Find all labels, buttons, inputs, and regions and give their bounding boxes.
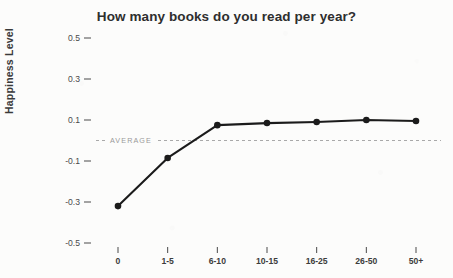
line-chart-plot: 0.50.30.1-0.1-0.3-0.5 01-56-1010-1516-25… xyxy=(0,0,453,278)
y-axis-tick-group: 0.50.30.1-0.1-0.3-0.5 xyxy=(65,33,91,248)
x-axis-tick-label: 6-10 xyxy=(209,256,226,266)
x-axis-tick-label: 0 xyxy=(116,256,121,266)
data-point-marker xyxy=(115,203,122,210)
x-axis-tick-label: 50+ xyxy=(409,256,424,266)
data-point-marker xyxy=(164,155,171,162)
y-axis-tick-label: -0.5 xyxy=(65,238,80,248)
data-point-marker xyxy=(264,120,271,127)
average-reference-line: AVERAGE xyxy=(96,136,441,145)
x-axis-tick-label: 1-5 xyxy=(161,256,174,266)
average-label: AVERAGE xyxy=(110,136,152,145)
y-axis-tick-label: 0.1 xyxy=(68,115,80,125)
x-axis-tick-group: 01-56-1010-1516-2526-5050+ xyxy=(116,247,424,266)
y-axis-tick-label: -0.3 xyxy=(65,197,80,207)
x-axis-tick-label: 16-25 xyxy=(306,256,328,266)
y-axis-tick-label: 0.5 xyxy=(68,33,80,43)
data-point-marker xyxy=(363,117,370,124)
data-point-marker xyxy=(413,118,420,125)
chart-page: How many books do you read per year? Hap… xyxy=(0,0,453,278)
y-axis-tick-label: 0.3 xyxy=(68,74,80,84)
x-axis-tick-label: 26-50 xyxy=(355,256,377,266)
data-point-marker xyxy=(214,122,221,129)
y-axis-tick-label: -0.1 xyxy=(65,156,80,166)
data-point-marker xyxy=(313,119,320,126)
x-axis-tick-label: 10-15 xyxy=(256,256,278,266)
happiness-line-series xyxy=(118,120,416,206)
data-point-group xyxy=(115,117,420,210)
